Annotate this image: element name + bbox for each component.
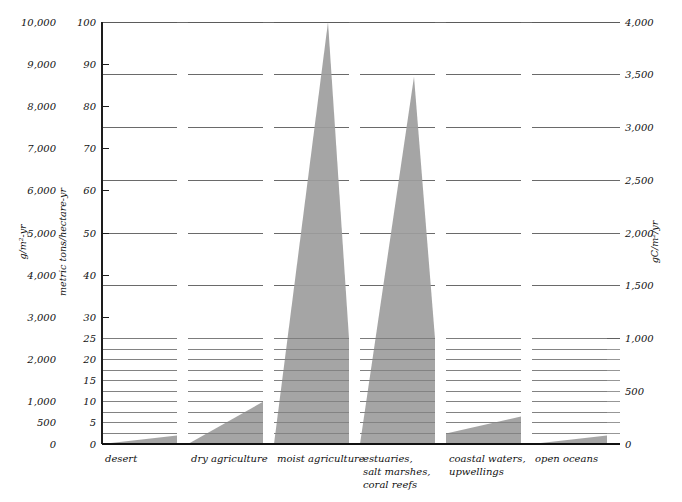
productivity-chart-figure: 10,0009,0008,0007,0006,0005,0004,0003,00… (0, 0, 682, 502)
tick-label-right: 3,000 (625, 122, 654, 133)
category-label-coastal-waters: upwellings (449, 466, 504, 477)
category-label-moist-agriculture: moist agriculture (277, 453, 365, 464)
tick-label-right: 1,000 (625, 333, 654, 344)
chart-canvas: 10,0009,0008,0007,0006,0005,0004,0003,00… (0, 0, 682, 502)
tick-label-left-inner: 10 (83, 396, 96, 407)
category-label-estuaries: estuaries, (363, 453, 413, 464)
category-label-desert: desert (105, 453, 138, 464)
tick-label-left-inner: 25 (82, 333, 96, 344)
category-label-open-oceans: open oceans (535, 453, 598, 464)
tick-label-left-inner: 20 (82, 354, 96, 365)
tick-label-left-outer: 2,000 (26, 354, 56, 365)
axis-title-left-inner: metric tons/hectare-yr (57, 187, 68, 296)
tick-label-left-outer: 6,000 (27, 185, 56, 196)
tick-label-left-outer: 7,000 (27, 143, 56, 154)
tick-label-left-inner: 100 (77, 17, 97, 28)
tick-label-left-inner: 50 (83, 228, 96, 239)
tick-label-right: 500 (625, 386, 645, 397)
tick-label-left-outer: 8,000 (27, 101, 56, 112)
category-label-coastal-waters: coastal waters, (449, 453, 526, 464)
tick-label-left-outer: 9,000 (27, 59, 56, 70)
tick-label-right: 2,500 (624, 175, 654, 186)
tick-label-left-inner: 80 (83, 101, 96, 112)
tick-label-left-inner: 90 (83, 59, 96, 70)
tick-label-left-outer: 5,000 (27, 228, 56, 239)
category-label-estuaries: salt marshes, (363, 466, 431, 477)
tick-label-left-inner: 40 (82, 270, 96, 281)
tick-label-left-outer: 1,000 (27, 396, 56, 407)
tick-label-left-outer: 10,000 (21, 17, 57, 28)
tick-label-left-inner: 70 (83, 143, 96, 154)
category-label-estuaries: coral reefs (363, 479, 417, 490)
tick-label-left-inner: 5 (90, 417, 96, 428)
tick-label-left-outer: 0 (50, 439, 57, 450)
tick-label-left-outer: 500 (37, 417, 57, 428)
tick-label-left-outer: 4,000 (26, 270, 56, 281)
axis-title-right: gC/m²/yr (649, 219, 660, 263)
tick-label-left-inner: 30 (83, 312, 96, 323)
tick-label-left-inner: 15 (83, 375, 96, 386)
axis-title-left-outer: g/m²-yr (17, 223, 28, 260)
tick-label-right: 1,500 (625, 280, 654, 291)
category-label-dry-agriculture: dry agriculture (191, 453, 268, 464)
tick-label-left-inner: 60 (83, 185, 96, 196)
tick-label-right: 4,000 (624, 17, 654, 28)
tick-label-left-outer: 3,000 (27, 312, 56, 323)
tick-label-right: 3,500 (625, 69, 654, 80)
tick-label-left-inner: 0 (90, 439, 97, 450)
tick-label-right: 0 (625, 439, 632, 450)
